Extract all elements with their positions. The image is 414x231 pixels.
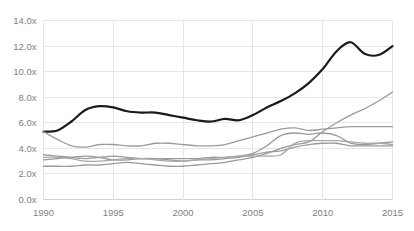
line-chart: 0.0x2.0x4.0x6.0x8.0x10.0x12.0x14.0x 1990… bbox=[0, 0, 414, 231]
x-axis-tick-label: 1990 bbox=[33, 207, 54, 218]
y-axis-tick-label: 0.0x bbox=[19, 194, 37, 205]
y-axis-tick-label: 12.0x bbox=[13, 41, 36, 52]
x-axis-tick-label: 1995 bbox=[103, 207, 124, 218]
x-axis-tick-label: 2010 bbox=[312, 207, 333, 218]
y-axis-tick-labels: 0.0x2.0x4.0x6.0x8.0x10.0x12.0x14.0x bbox=[13, 15, 36, 205]
y-axis-tick-label: 4.0x bbox=[19, 143, 37, 154]
x-axis-tick-label: 2005 bbox=[242, 207, 263, 218]
chart-container: 0.0x2.0x4.0x6.0x8.0x10.0x12.0x14.0x 1990… bbox=[0, 0, 414, 231]
y-axis-tick-label: 6.0x bbox=[19, 117, 37, 128]
data-series-group bbox=[44, 42, 393, 166]
series-line-series-2-gray-rising bbox=[44, 92, 393, 166]
y-axis-tick-label: 14.0x bbox=[13, 15, 36, 26]
y-axis-tick-label: 8.0x bbox=[19, 92, 37, 103]
series-line-series-1-black bbox=[44, 42, 393, 132]
x-axis-tick-label: 2000 bbox=[173, 207, 194, 218]
y-axis-tick-label: 10.0x bbox=[13, 66, 36, 77]
x-axis-tick-labels: 199019952000200520102015 bbox=[33, 207, 403, 218]
x-axis-tick-label: 2015 bbox=[382, 207, 403, 218]
y-axis-tick-label: 2.0x bbox=[19, 168, 37, 179]
